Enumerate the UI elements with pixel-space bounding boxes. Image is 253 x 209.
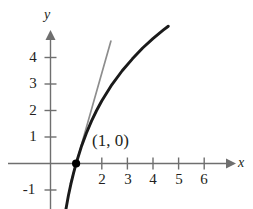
x-axis-label: x <box>238 156 244 170</box>
x-tick-label-2: 2 <box>94 172 110 187</box>
tangency-point-label: (1, 0) <box>92 132 129 149</box>
y-tick-label-3: 3 <box>26 76 40 91</box>
graph-figure: y x 4 3 2 1 -1 2 3 4 5 6 (1, 0) <box>0 0 253 209</box>
y-axis-label: y <box>44 8 50 22</box>
y-tick-label-neg1: -1 <box>18 182 40 197</box>
y-tick-label-1: 1 <box>26 129 40 144</box>
x-tick-label-4: 4 <box>145 172 161 187</box>
x-tick-label-6: 6 <box>196 172 212 187</box>
y-axis-arrow-icon <box>46 30 56 40</box>
tangency-point-marker <box>72 159 80 167</box>
y-tick-label-4: 4 <box>26 50 40 65</box>
x-axis-arrow-icon <box>226 159 236 169</box>
x-tick-label-3: 3 <box>120 172 136 187</box>
y-tick-label-2: 2 <box>26 103 40 118</box>
x-tick-label-5: 5 <box>171 172 187 187</box>
